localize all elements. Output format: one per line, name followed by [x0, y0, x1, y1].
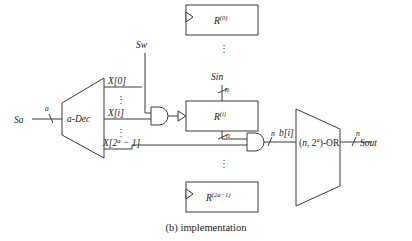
sin-label: Sin [211, 72, 223, 82]
decoder-output-0-label: X[0] [107, 76, 126, 86]
a-decoder-label: a-Dec [67, 114, 91, 124]
figure-canvas: Sa a a-Dec X[0] ⋮ X[i] ⋮ X[2a − 1] Sw Si… [0, 0, 412, 241]
sa-bus-width-label: a [45, 104, 49, 113]
figure-caption: (b) implementation [0, 222, 412, 233]
sout-width-label: n [356, 129, 360, 138]
sin-bus-width-label: n [225, 85, 229, 94]
register-i-out-wire [222, 131, 241, 139]
sout-label: Sout [360, 138, 377, 148]
sa-label: Sa [14, 115, 24, 125]
register-ellipsis-lower: ⋮ [219, 158, 229, 169]
read-and-gate [247, 133, 264, 151]
bi-signal-label: b[i] [279, 128, 294, 138]
write-and-gate [151, 107, 168, 125]
register-i-clock-triangle [178, 111, 186, 121]
decoder-ellipsis-upper: ⋮ [116, 94, 126, 105]
figure-caption-text: implementation [180, 222, 246, 233]
or-block [296, 109, 340, 206]
register-i-out-width-label: n [226, 131, 230, 140]
circuit-diagram: Sa a a-Dec X[0] ⋮ X[i] ⋮ X[2a − 1] Sw Si… [0, 0, 412, 241]
and-out-width-label: n [271, 129, 275, 138]
figure-caption-tag: (b) [166, 222, 178, 233]
decoder-output-last-label: X[2a − 1] [102, 137, 140, 148]
decoder-output-i-label: X[i] [107, 108, 124, 118]
register-ellipsis-upper: ⋮ [219, 43, 229, 54]
or-block-label: (n, 2a)-OR [299, 136, 340, 149]
sw-label: Sw [136, 40, 148, 50]
